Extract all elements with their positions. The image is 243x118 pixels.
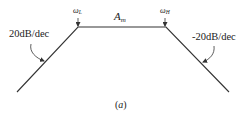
left-slope-pointer [31, 44, 44, 61]
right-slope-label: -20dB/dec [192, 32, 236, 43]
figure-caption: (a) [115, 100, 127, 110]
caption-close: ) [123, 99, 126, 110]
omega-h-subscript: H [166, 9, 170, 15]
right-slope-pointer [203, 46, 214, 62]
midband-subscript: m [121, 16, 126, 24]
omega-l-label: ωL [73, 7, 82, 16]
midband-symbol: A [114, 10, 121, 22]
midband-gain-label: Am [114, 11, 126, 24]
left-slope-label: 20dB/dec [9, 29, 49, 40]
omega-l-subscript: L [79, 9, 82, 15]
omega-h-label: ωH [160, 7, 170, 16]
bode-diagram: 20dB/dec -20dB/dec ωL ωH Am (a) [0, 0, 243, 118]
